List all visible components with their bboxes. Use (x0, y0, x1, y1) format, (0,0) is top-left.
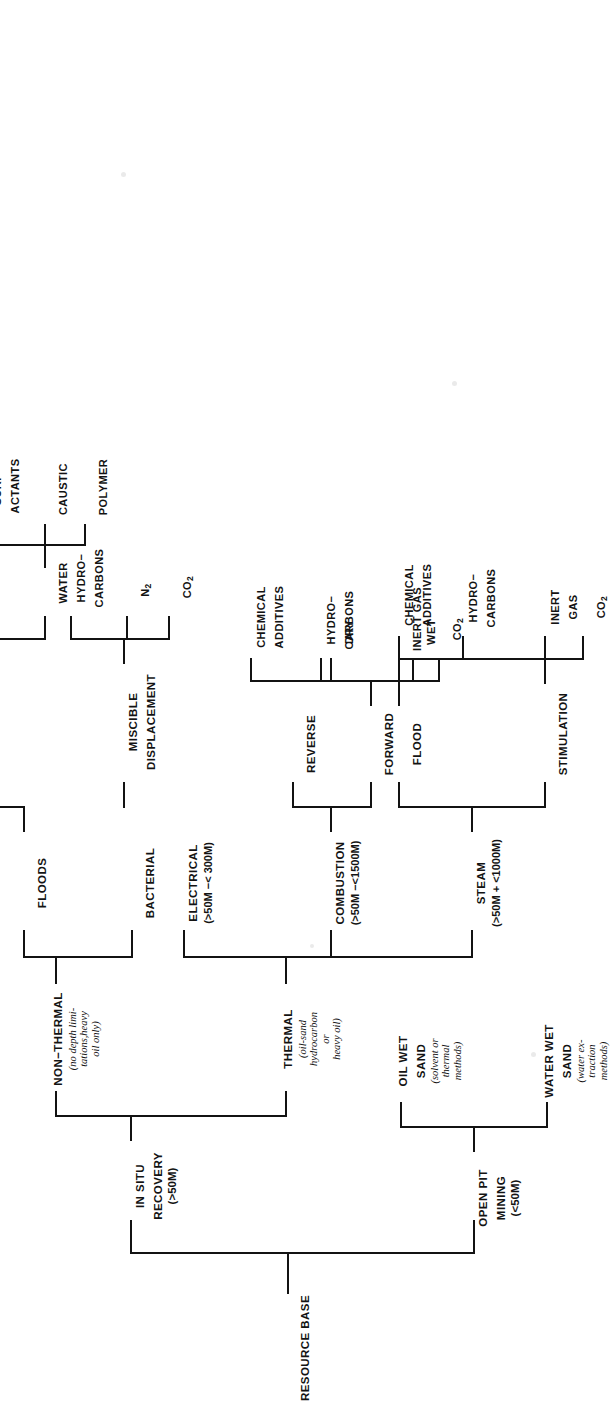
connector-miscible-bus (70, 638, 170, 640)
connector-stimulation-stem (544, 658, 546, 684)
node-in-situ-recovery[interactable]: IN SITU RECOVERY (>50M) (113, 1138, 196, 1234)
node-electrical[interactable]: ELECTRICAL (>50M −< 300M) (166, 834, 231, 932)
node-sublabel: (>50M −<1500M) (349, 834, 361, 932)
node-miscible-displacement[interactable]: MISCIBLE DISPLACEMENT (106, 666, 158, 778)
node-label: HYDRO− CARBONS (467, 569, 496, 628)
node-resource-base[interactable]: RESOURCE BASE (278, 1292, 313, 1404)
node-sublabel: (oil-sand hydrocarbon or heavy oil) (297, 985, 343, 1093)
connector-thermal-bus (183, 956, 473, 958)
connector-steam-bus (398, 806, 546, 808)
node-label: CHEMICAL ADDITIVES (255, 586, 284, 649)
connector-water-caustic (44, 524, 46, 546)
node-combustion[interactable]: COMBUSTION (>50M −<1500M) (313, 834, 378, 932)
connector-nonthermal-to-bacterial (131, 930, 133, 958)
node-forward-wet[interactable]: WET (404, 608, 439, 656)
paper-speck (452, 381, 457, 386)
node-label: ELECTRICAL (187, 844, 199, 921)
connector-misc-co2 (168, 616, 170, 640)
connector-insitu-to-thermal (285, 1091, 287, 1117)
connector-combustion-bus (292, 806, 372, 808)
node-label: DRY (343, 620, 355, 644)
node-open-pit-mining[interactable]: OPEN PIT MINING (<50M) (456, 1150, 539, 1246)
node-misc-n2[interactable]: N2 (118, 566, 153, 614)
connector-openpit-bus (400, 1126, 548, 1128)
node-misc-co2[interactable]: CO2 (160, 560, 195, 614)
node-label: OPEN PIT MINING (477, 1169, 506, 1226)
connector-forward-bus (330, 680, 414, 682)
connector-steam-to-flood (398, 782, 400, 808)
connector-thermal-stem (285, 956, 287, 984)
node-label: THERMAL (282, 1009, 294, 1068)
node-sublabel: (water ex- traction methods) (575, 1018, 610, 1104)
node-reverse[interactable]: REVERSE (284, 706, 319, 782)
connector-floods-to-miscible (123, 782, 125, 808)
node-label: CO2 (181, 576, 193, 599)
connector-thermal-to-steam (471, 930, 473, 958)
connector-misc-n2 (126, 616, 128, 640)
connector-root-bus (130, 1252, 475, 1254)
connector-stim-co2 (582, 636, 584, 660)
node-sublabel: (solvent or thermal methods) (429, 1018, 464, 1104)
paper-speck (531, 1052, 536, 1057)
connector-openpit-stem (473, 1126, 475, 1152)
node-flood-chemical-additives[interactable]: CHEMICAL ADDITIVES (234, 578, 286, 656)
node-sublabel: (>50M + <1000M) (490, 834, 502, 932)
node-water-caustic[interactable]: CAUSTIC (36, 456, 71, 522)
connector-insitu-to-nonthermal (55, 1091, 57, 1117)
node-forward[interactable]: FORWARD (362, 706, 397, 782)
connector-stimulation-bus (398, 658, 584, 660)
connector-thermal-to-combustion (330, 930, 332, 958)
node-label: CO2 (595, 596, 607, 619)
node-label: WATER WET SAND (543, 1024, 572, 1097)
connector-steam-stem (471, 806, 473, 832)
connector-floods-stem (23, 806, 25, 832)
connector-flood-co2 (438, 658, 440, 682)
connector-forward-wet (412, 658, 414, 682)
connector-miscible-stem (123, 638, 125, 664)
node-floods[interactable]: FLOODS (15, 836, 50, 930)
paper-speck (121, 172, 126, 177)
connector-thermal-to-electrical (183, 930, 185, 958)
node-label: STIMULATION (557, 693, 569, 776)
node-label: WATER (57, 562, 69, 603)
connector-insitu-bus (55, 1115, 287, 1117)
connector-immiscible-bus (0, 638, 46, 640)
node-label: FORWARD (383, 713, 395, 775)
node-label: RESOURCE BASE (299, 1295, 311, 1401)
connector-nonthermal-to-floods (23, 930, 25, 958)
node-thermal[interactable]: THERMAL (oil-sand hydrocarbon or heavy o… (261, 985, 360, 1093)
node-water-surfactants[interactable]: SURF− ACTANTS (0, 450, 22, 522)
paper-speck (310, 944, 314, 948)
node-label: BACTERIAL (144, 848, 156, 919)
node-label: NON−THERMAL (52, 992, 64, 1085)
connector-openpit-to-oilwet (400, 1102, 402, 1128)
node-label: COMBUSTION (334, 841, 346, 924)
node-sublabel: (>50M) (166, 1138, 179, 1234)
node-sublabel: (<50M) (509, 1150, 522, 1246)
connector-steam-to-stimulation (544, 782, 546, 808)
node-bacterial[interactable]: BACTERIAL (123, 836, 158, 930)
connector-immisc-water (44, 616, 46, 640)
node-water-wet-sand[interactable]: WATER WET SAND (water ex- traction metho… (522, 1018, 614, 1104)
node-label: INERT GAS (549, 589, 578, 624)
node-stimulation[interactable]: STIMULATION (536, 686, 571, 782)
connector-floods-bus (0, 806, 25, 808)
node-label: MISCIBLE DISPLACEMENT (127, 674, 156, 770)
node-steam[interactable]: STEAM (>50M + <1000M) (454, 834, 519, 932)
node-oil-wet-sand[interactable]: OIL WET SAND (solvent or thermal methods… (376, 1018, 481, 1104)
node-label: CO2 (451, 618, 463, 641)
connector-flood-chemadd (250, 658, 252, 682)
node-label: N2 (139, 583, 151, 597)
node-stim-inert-gas[interactable]: INERT GAS (528, 580, 580, 634)
connector-stim-inertgas (544, 636, 546, 660)
node-forward-dry[interactable]: DRY (322, 608, 357, 656)
connector-combustion-stem (330, 806, 332, 832)
node-immisc-water[interactable]: WATER (36, 552, 71, 614)
node-label: HYDRO− CARBONS (75, 549, 104, 608)
connector-nonthermal-stem (55, 956, 57, 984)
node-non-thermal[interactable]: NON−THERMAL (no depth limi- tations,heav… (31, 985, 118, 1093)
node-label: FLOODS (36, 858, 48, 909)
node-sublabel: (>50M −< 300M) (202, 834, 214, 932)
node-water-polymer[interactable]: POLYMER (76, 452, 111, 522)
connector-root-stem (287, 1252, 289, 1294)
